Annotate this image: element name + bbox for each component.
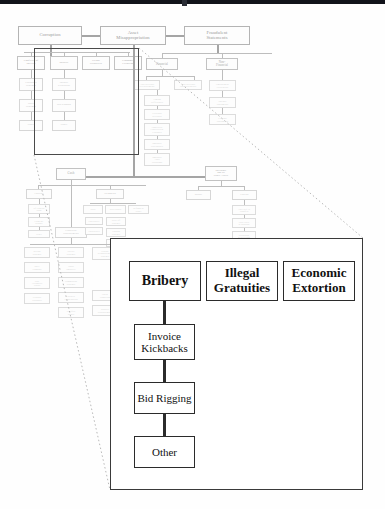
node-asset-req-transfers: Asset Req. & Transfers (232, 205, 256, 215)
node-shell-company: Shell Company (24, 262, 50, 273)
connector-ci-chain-3 (31, 112, 32, 120)
node-from-the-deposit: From the Deposit (28, 217, 50, 227)
connector-invl-0 (244, 200, 245, 205)
connector-l1-a (82, 35, 100, 37)
node-external-documents: External Documents (209, 114, 236, 125)
connector-inv-bus (198, 186, 244, 187)
node-asset-revenue-understatements: Asset/Revenue Understatements (174, 80, 202, 90)
zoom-source-highlight-rect (34, 48, 139, 155)
scan-edge-band (0, 0, 385, 4)
node-commission-schemes: Commission Schemes (58, 277, 84, 288)
callout-node-illegal-gratuities: Illegal Gratuities (206, 261, 278, 301)
connector-l1-b (166, 35, 184, 37)
callout-connector-1 (163, 301, 166, 324)
node-non-financial: Non- Financial (206, 58, 238, 70)
connector-nf-2 (222, 108, 223, 114)
node-skim-sales: Sales (83, 205, 103, 214)
node-fraudulent-disbursements: Fraudulent Disbursements (55, 227, 87, 238)
node-inventory-other-assets: Inventory and all Other Assets (205, 166, 237, 181)
node-improper-disclosures: Improper Disclosures (144, 139, 170, 150)
connector-ci-chain-1 (31, 70, 32, 78)
magnified-callout-panel: Bribery Illegal Gratuities Economic Exto… (110, 238, 363, 490)
node-cash: Cash (56, 168, 86, 180)
node-skim-receivables: Receivables (105, 205, 126, 214)
node-employment-credentials: Employment Credentials (209, 80, 236, 91)
connector-lar-1 (39, 214, 40, 217)
node-inventory-misuse: Misuse (186, 190, 211, 200)
callout-node-economic-extortion: Economic Extortion (283, 261, 355, 301)
callout-connector-3 (163, 414, 166, 436)
node-concealed-liabilities: Concealed Liabilities & Expenses (144, 123, 170, 136)
connector-ci-1 (31, 52, 32, 56)
connector-invl-2 (244, 228, 245, 231)
node-payroll-schemes: Payroll Schemes (58, 247, 84, 258)
connector-lar-2 (39, 227, 40, 230)
node-workers-compensation: Workers Compensation (58, 292, 84, 303)
callout-node-bribery: Bribery (129, 261, 201, 301)
callout-connector-2 (163, 360, 166, 382)
connector-nf-0 (222, 70, 223, 80)
node-recv-lapping: Lapping Schemes (106, 228, 126, 237)
node-fictitious-revenues: Fictitious Revenues (144, 109, 170, 120)
node-inventory-larceny: Larceny (232, 190, 257, 200)
node-sales-unrecorded: Unrecorded (85, 217, 103, 225)
node-internal-documents: Internal Documents (209, 97, 236, 108)
connector-fs-bus (162, 53, 272, 54)
node-skim-refunds-other: Refunds & Other (128, 205, 149, 214)
connector-disb-up (71, 185, 72, 227)
node-fraudulent-statements: Fraudulent Statements (184, 26, 250, 45)
connector-finchain-4 (157, 150, 158, 153)
node-billing-schemes: Billing Schemes (24, 247, 50, 258)
connector-finchain-3 (157, 136, 158, 139)
node-ghost-employee: Ghost Employee (58, 262, 84, 273)
callout-node-bid-rigging: Bid Rigging (134, 382, 195, 414)
connector-fin-bus (146, 76, 194, 77)
diagram-page: Corruption Asset Misappropriation Fraudu… (0, 0, 385, 509)
callout-node-invoice-kickbacks: Invoice Kickbacks (134, 324, 195, 360)
connector-finchain-0 (157, 90, 158, 95)
connector-fs-down (217, 45, 219, 53)
node-falsified-wages: Falsified Wages (58, 307, 84, 318)
node-non-accomplice-vendor: Non- Accomplice Vendor (24, 277, 50, 289)
node-false-sales-shipping: False Sales & Shipping (232, 218, 256, 228)
connector-finchain-1 (157, 106, 158, 109)
node-recv-writeoff: Write-off Schemes (106, 217, 126, 226)
callout-node-other: Other (134, 436, 195, 468)
node-corruption: Corruption (18, 26, 82, 45)
connector-invl-1 (244, 215, 245, 218)
node-larceny: Larceny (26, 189, 52, 199)
node-timing-differences: Timing Differences (144, 95, 170, 106)
node-asset-misappropriation: Asset Misappropriation (100, 26, 166, 45)
node-sales-understated: Understated (85, 227, 103, 235)
connector-skim-bus (90, 203, 136, 204)
node-larceny-other: Other (28, 230, 50, 238)
connector-finchain-2 (157, 120, 158, 123)
connector-lar-0 (39, 199, 40, 204)
node-improper-asset-valuations: Improper Asset Valuations (144, 153, 170, 166)
connector-ci-chain-2 (31, 91, 32, 99)
node-personal-purchases: Personal Purchases (24, 293, 50, 304)
scan-edge-nub (182, 0, 187, 6)
connector-nf-1 (222, 91, 223, 97)
node-skimming: Skimming (96, 189, 124, 199)
node-of-cash-on-hand: Of Cash on Hand (28, 204, 50, 214)
node-financial: Financial (146, 58, 178, 70)
connector-cash-bus (38, 185, 146, 186)
